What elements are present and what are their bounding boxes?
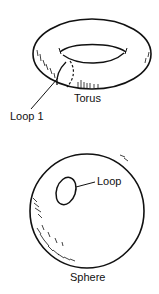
torus-shape <box>33 19 151 89</box>
sphere-shape <box>30 154 144 268</box>
loop1-label: Loop 1 <box>10 111 44 122</box>
sphere-loop-label: Loop <box>97 176 121 187</box>
sphere-loop-leader-line <box>76 182 95 187</box>
torus-label: Torus <box>74 93 101 104</box>
loop1-leader-line <box>31 78 58 109</box>
sphere-label: Sphere <box>70 272 105 283</box>
topology-diagram <box>0 0 159 294</box>
